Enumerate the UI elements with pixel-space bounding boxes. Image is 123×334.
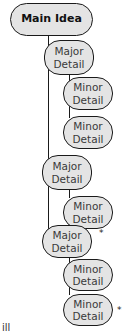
minor-detail-node: Minor Detail (63, 116, 113, 149)
node-line2: Detail (73, 213, 104, 226)
asterisk-icon: * (117, 306, 122, 315)
node-line2: Detail (73, 133, 104, 146)
major-2-branch-line (69, 189, 70, 198)
node-line2: Detail (73, 94, 104, 107)
major-detail-node: Major Detail (42, 225, 92, 258)
node-line1: Minor (73, 81, 104, 94)
node-line2: Detail (52, 173, 83, 186)
node-line2: Detail (52, 242, 83, 255)
minor-detail-node: Minor Detail (63, 294, 113, 326)
node-line1: Major (52, 160, 83, 173)
caption-fragment: ill (2, 322, 10, 334)
node-line2: Detail (73, 275, 104, 288)
major-detail-node: Major Detail (42, 155, 92, 190)
major-detail-node: Major Detail (44, 40, 94, 75)
node-line1: Major (54, 45, 85, 58)
main-idea-label: Main Idea (21, 13, 82, 26)
node-line1: Major (52, 229, 83, 242)
asterisk-icon: * (99, 229, 104, 238)
minor-detail-node: Minor Detail (63, 259, 113, 291)
node-line2: Detail (54, 58, 85, 71)
node-line2: Detail (73, 310, 104, 323)
node-line1: Minor (73, 263, 104, 276)
main-idea-node: Main Idea (10, 3, 93, 36)
node-line1: Minor (73, 200, 104, 213)
node-line1: Minor (73, 298, 104, 311)
node-line1: Minor (73, 120, 104, 133)
minor-detail-node: Minor Detail (63, 77, 113, 110)
